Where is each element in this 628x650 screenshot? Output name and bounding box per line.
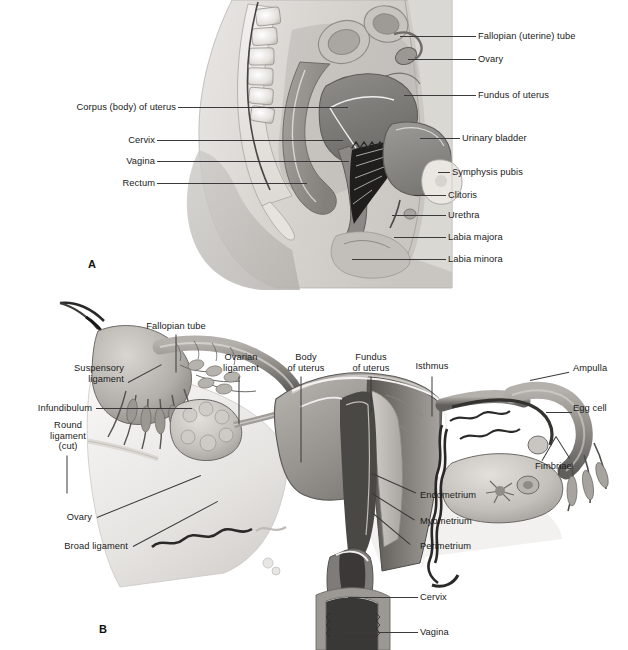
panel-b-letter: B bbox=[99, 623, 107, 635]
leader-isthmus-b bbox=[432, 377, 433, 417]
label-labia-minora-a: Labia minora bbox=[448, 254, 503, 265]
label-ampulla-b: Ampulla bbox=[573, 363, 607, 374]
panel-a: A Fallopian (uterine) tube Ovary Fundus … bbox=[0, 0, 628, 295]
leader-rectum-a bbox=[157, 183, 307, 184]
label-vagina-b: Vagina bbox=[420, 627, 449, 638]
label-urinary-bladder-a: Urinary bladder bbox=[462, 133, 527, 144]
label-labia-majora-a: Labia majora bbox=[448, 232, 503, 243]
panel-b-illustration bbox=[0, 295, 628, 650]
label-corpus-of-uterus-a: Corpus (body) of uterus bbox=[76, 102, 176, 113]
leader-fallopian-a bbox=[400, 36, 476, 37]
label-egg-cell-b: Egg cell bbox=[573, 403, 607, 414]
leader-ovary-a bbox=[408, 59, 476, 60]
label-urethra-a: Urethra bbox=[448, 210, 480, 221]
label-infundibulum-b: Infundibulum bbox=[38, 403, 92, 414]
label-vagina-a: Vagina bbox=[126, 156, 155, 167]
panel-a-illustration bbox=[0, 0, 628, 295]
leader-fundus-of-uterus-b bbox=[371, 377, 372, 413]
leader-labia-minora-a bbox=[352, 259, 446, 260]
label-cervix-a: Cervix bbox=[128, 135, 155, 146]
anatomy-figure: A Fallopian (uterine) tube Ovary Fundus … bbox=[0, 0, 628, 650]
label-fallopian-tube-b: Fallopian tube bbox=[118, 321, 234, 332]
label-round-ligament-b: Round ligament (cut) bbox=[18, 420, 118, 452]
label-fimbriae-b: Fimbriae bbox=[535, 461, 572, 472]
leader-fallopian-tube-b bbox=[176, 335, 177, 373]
leader-ovarian-ligament-b bbox=[239, 377, 240, 425]
leader-corpus-a bbox=[178, 107, 348, 108]
leader-vagina-a bbox=[157, 161, 349, 162]
label-suspensory-ligament-b: Suspensory ligament bbox=[74, 363, 124, 384]
label-fallopian-tube-a: Fallopian (uterine) tube bbox=[478, 31, 576, 42]
label-ovary-a: Ovary bbox=[478, 54, 503, 65]
leader-cervix-a bbox=[157, 140, 343, 141]
leader-round-ligament-b bbox=[67, 456, 68, 494]
label-isthmus-b: Isthmus bbox=[400, 361, 464, 372]
label-cervix-b: Cervix bbox=[420, 592, 447, 603]
leader-body-of-uterus-b bbox=[301, 377, 302, 463]
label-endometrium-b: Endometrium bbox=[420, 490, 476, 501]
leader-urethra-a bbox=[392, 215, 446, 216]
label-rectum-a: Rectum bbox=[122, 178, 155, 189]
panel-b: B bbox=[0, 295, 628, 650]
leader-infundibulum-b bbox=[96, 408, 192, 409]
label-myometrium-b: Myometrium bbox=[420, 516, 472, 527]
leader-urinary-bladder-a bbox=[420, 138, 460, 139]
leader-fundus-a bbox=[404, 95, 476, 96]
label-perimetrium-b: Perimetrium bbox=[420, 541, 471, 552]
label-broad-ligament-b: Broad ligament bbox=[64, 541, 128, 552]
leader-vagina-b bbox=[344, 632, 418, 633]
leader-cervix-b bbox=[348, 597, 418, 598]
panel-a-letter: A bbox=[88, 258, 96, 270]
label-symphysis-pubis-a: Symphysis pubis bbox=[452, 167, 523, 178]
leader-symphysis-a bbox=[438, 172, 450, 173]
leader-labia-majora-a bbox=[394, 237, 446, 238]
label-clitoris-a: Clitoris bbox=[448, 190, 477, 201]
leader-clitoris-a bbox=[414, 195, 446, 196]
label-fundus-of-uterus-a: Fundus of uterus bbox=[478, 90, 549, 101]
label-ovary-b: Ovary bbox=[67, 512, 92, 523]
leader-egg-cell-b bbox=[546, 412, 572, 413]
